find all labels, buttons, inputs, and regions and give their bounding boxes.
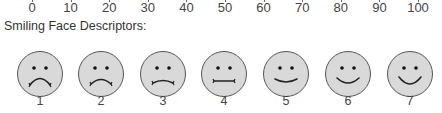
tick-label: 90 [372,0,386,15]
face-icon-frown-medium [77,50,125,98]
face-icon-frown-strong [16,50,64,98]
face-number-label: 5 [283,94,290,108]
face-icon-frown-slight [139,50,187,98]
face-number-label: 2 [98,94,105,108]
tick-label: 0 [28,0,35,15]
tick-label: 50 [218,0,232,15]
tick-label: 100 [407,0,429,15]
face-icon-neutral [200,50,248,98]
tick-label: 80 [334,0,348,15]
tick-label: 20 [102,0,116,15]
face-icon-smile-slight [262,50,310,98]
descriptors-title: Smiling Face Descriptors: [4,19,146,33]
face-number-label: 7 [407,94,414,108]
face-number-label: 1 [37,94,44,108]
tick-label: 30 [141,0,155,15]
tick-label: 10 [63,0,77,15]
face-icon-smile-strong [386,50,434,98]
face-number-label: 6 [345,94,352,108]
face-number-label: 3 [160,94,167,108]
tick-label: 70 [295,0,309,15]
tick-label: 40 [179,0,193,15]
face-number-label: 4 [221,94,228,108]
tick-label: 60 [256,0,270,15]
face-icon-smile-medium [324,50,372,98]
